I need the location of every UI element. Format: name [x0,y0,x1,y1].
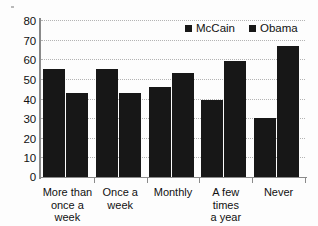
x-tick-label-line: Never [252,186,305,199]
legend: McCain Obama [185,22,298,34]
bar [254,118,276,177]
bar-group [41,20,94,177]
y-tick-label: 50 [23,74,36,86]
bar [277,46,299,177]
bars-layer [41,20,305,177]
y-tick-label: 40 [23,94,36,106]
x-tick-label-line: week [94,199,147,212]
x-tick-label-line: A few times [199,186,252,211]
bar-group [199,20,252,177]
x-tick-label: A few timesa year [199,186,252,224]
x-tick-label-line: More than [41,186,94,199]
legend-swatch-icon [185,25,192,32]
legend-item-obama: Obama [249,22,298,34]
y-tick-label: 20 [23,133,36,145]
bar [172,73,194,177]
x-tick-label: Never [252,186,305,199]
y-tick-label: 60 [23,54,36,66]
x-tick-label-line: Monthly [147,186,200,199]
bar [149,87,171,177]
x-axis-tick [252,177,253,183]
legend-label: McCain [196,22,235,34]
x-tick-label-line: once a week [41,199,94,224]
bar-group [252,20,305,177]
bar [201,100,223,177]
x-axis-line [39,177,307,178]
bar-group [147,20,200,177]
legend-swatch-icon [249,25,256,32]
y-tick-label: 0 [30,171,36,183]
legend-item-mccain: McCain [185,22,235,34]
bar [96,69,118,177]
bar [43,69,65,177]
x-axis-tick [147,177,148,183]
x-axis-tick [199,177,200,183]
x-axis-tick [94,177,95,183]
x-tick-label: More thanonce a week [41,186,94,224]
y-tick-label: 80 [23,15,36,27]
plot-area: 80706050403020100 [41,20,305,177]
bar-group [94,20,147,177]
y-tick-label: 30 [23,113,36,125]
x-tick-label: Monthly [147,186,200,199]
x-axis-tick [305,177,306,183]
bar-chart: 80706050403020100 More thanonce a weekOn… [0,0,318,226]
x-tick-label-line: a year [199,211,252,224]
y-tick-label: 10 [23,152,36,164]
legend-label: Obama [260,22,298,34]
x-tick-label: Once aweek [94,186,147,211]
bar [66,93,88,177]
x-tick-label-line: Once a [94,186,147,199]
y-tick-label: 70 [23,35,36,47]
scan-artifact-speck [11,6,14,8]
bar [224,61,246,177]
bar [119,93,141,177]
